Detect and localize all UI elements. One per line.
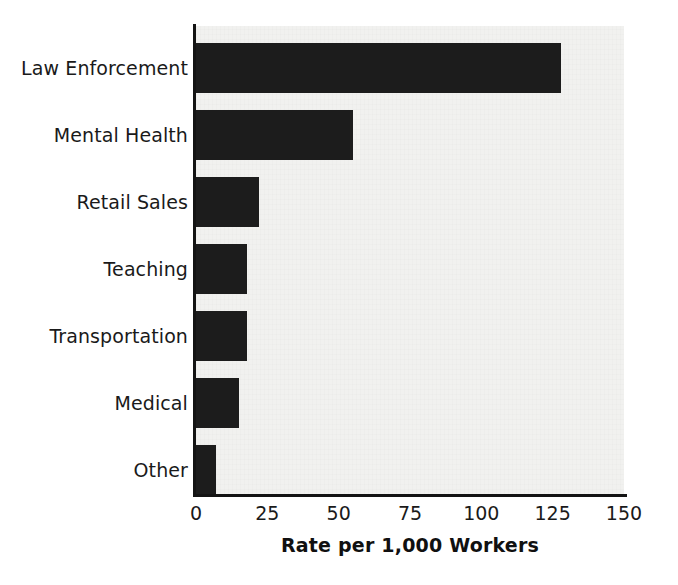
bar-chart: Law EnforcementMental HealthRetail Sales… [0, 0, 678, 585]
x-tick-75: 75 [398, 500, 422, 526]
category-label-other: Other [2, 445, 188, 495]
x-tick-0: 0 [190, 500, 202, 526]
x-tick-100: 100 [463, 500, 499, 526]
category-label-retail-sales: Retail Sales [2, 177, 188, 227]
bar-teaching [196, 244, 247, 294]
bar-mental-health [196, 110, 353, 160]
category-label-medical: Medical [2, 378, 188, 428]
plot-area [196, 26, 624, 495]
x-axis-line [193, 494, 627, 497]
bar-law-enforcement [196, 43, 561, 93]
category-label-law-enforcement: Law Enforcement [2, 43, 188, 93]
x-tick-125: 125 [535, 500, 571, 526]
x-tick-25: 25 [255, 500, 279, 526]
x-axis-title: Rate per 1,000 Workers [196, 534, 624, 556]
x-axis-tick-labels: 0255075100125150 [0, 500, 678, 530]
category-label-transportation: Transportation [2, 311, 188, 361]
bar-other [196, 445, 216, 495]
x-tick-50: 50 [327, 500, 351, 526]
x-tick-150: 150 [606, 500, 642, 526]
bar-retail-sales [196, 177, 259, 227]
bar-transportation [196, 311, 247, 361]
category-axis-labels: Law EnforcementMental HealthRetail Sales… [0, 26, 188, 495]
bar-medical [196, 378, 239, 428]
category-label-teaching: Teaching [2, 244, 188, 294]
y-axis-line [193, 24, 196, 497]
category-label-mental-health: Mental Health [2, 110, 188, 160]
